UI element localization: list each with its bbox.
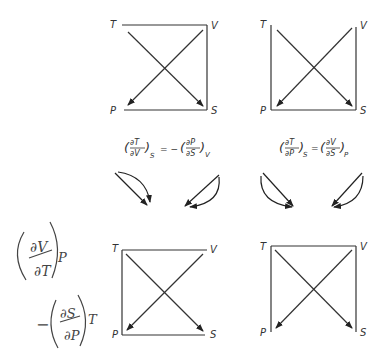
diagram-top-left	[122, 25, 207, 110]
label-t: T	[260, 241, 267, 252]
label-t: T	[110, 19, 117, 30]
label-t: T	[112, 243, 119, 254]
arc-arrow-3	[261, 176, 292, 207]
eq-right-lhs-num: ∂T	[285, 138, 295, 147]
eq-right-rhs-den: ∂S	[326, 149, 335, 158]
label-v: V	[360, 20, 368, 31]
label-v: V	[210, 244, 218, 255]
label-s: S	[360, 327, 367, 338]
diagram-bottom-left	[122, 250, 207, 335]
eq-right-operator: =	[311, 143, 319, 153]
eq-left-lhs-den: ∂V	[130, 149, 140, 158]
equation-left: ( ∂T ∂V ) S = − ( ∂P ∂S ) V	[124, 138, 211, 160]
arrow-t-to-s	[128, 32, 203, 106]
label-v: V	[360, 241, 368, 252]
hw1-num: ∂V	[30, 239, 49, 255]
hw2-num: ∂S	[60, 306, 76, 321]
diag-arrow-1	[115, 173, 147, 205]
hw2-den: ∂P	[64, 328, 80, 343]
diagram-bottom-right	[271, 246, 356, 332]
eq-right-rhs-num: ∂V	[326, 138, 336, 147]
label-t: T	[260, 19, 267, 30]
arc-arrow-4	[334, 176, 363, 207]
hw1-den: ∂T	[34, 263, 52, 279]
eq-right-lhs-sub: S	[303, 151, 308, 159]
eq-left-rhs-sub: V	[205, 151, 211, 159]
maxwell-relations-figure: T V P S T V P S ( ∂T ∂V ) S = − ( ∂P ∂S …	[0, 0, 382, 350]
label-s: S	[360, 105, 367, 116]
arc-arrow-1	[118, 172, 150, 202]
eq-right-lhs-den: ∂P	[285, 149, 294, 158]
handwritten-annotation-2: − ∂S ∂P T	[36, 295, 98, 348]
label-p: P	[260, 105, 267, 116]
hw1-sub: P	[57, 250, 67, 265]
handwritten-annotation-1: ∂V ∂T P	[17, 222, 67, 280]
label-s: S	[211, 105, 218, 116]
eq-left-operator: = −	[160, 144, 178, 154]
diagram-top-right	[271, 25, 356, 110]
hw2-sign: −	[36, 315, 49, 334]
label-s: S	[210, 329, 217, 340]
diag-arrow-2	[185, 175, 219, 206]
eq-left-rhs-den: ∂S	[186, 149, 195, 158]
eq-left-rhs-num: ∂P	[186, 138, 195, 147]
diag-arrow-4	[332, 173, 362, 206]
eq-left-lhs-sub: S	[150, 152, 155, 160]
mnemonic-arrows	[115, 172, 363, 207]
arrow-v-to-p	[128, 30, 203, 105]
label-p: P	[112, 329, 119, 340]
label-p: P	[110, 105, 117, 116]
label-v: V	[211, 20, 219, 31]
eq-left-lhs-num: ∂T	[130, 138, 140, 147]
equation-right: ( ∂T ∂P ) S = ( ∂V ∂S ) P	[279, 138, 349, 159]
arrow-v-to-p	[127, 254, 203, 330]
hw2-sub: T	[88, 312, 98, 327]
eq-right-rhs-sub: P	[344, 151, 349, 159]
diag-arrow-3	[263, 173, 293, 206]
label-p: P	[260, 327, 267, 338]
arc-arrow-2	[190, 177, 219, 207]
